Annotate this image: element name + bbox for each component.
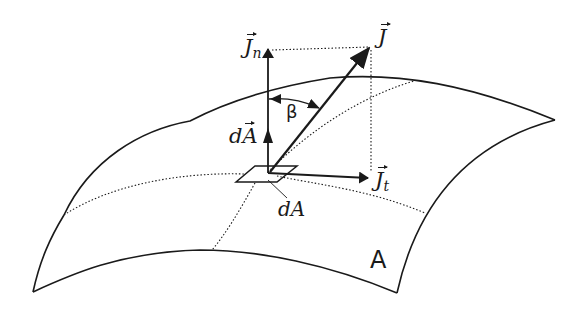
label-J-main: J — [378, 27, 386, 48]
label-dA-vector-d: d — [229, 124, 242, 148]
label-Jn-sub: n — [252, 45, 261, 61]
diagram-graphics — [0, 0, 587, 309]
label-dA: dA — [278, 199, 305, 219]
label-Jt-sub: t — [383, 178, 389, 194]
current-density-arrow — [270, 48, 369, 172]
label-dA-vector: dA — [229, 126, 258, 147]
label-beta: β — [286, 103, 298, 121]
beta-arc-start-arrowhead — [270, 94, 281, 104]
label-Jt: Jt — [375, 170, 389, 191]
label-dA-vector-A: A — [242, 126, 257, 147]
label-surface-A: A — [370, 248, 386, 272]
label-J: J — [378, 27, 386, 48]
dA-leader-line — [268, 180, 287, 198]
label-Jn: Jn — [244, 37, 261, 58]
dA-vector-arrowhead — [263, 128, 273, 143]
flux-surface-diagram: Jn J Jt dA β dA A — [0, 0, 587, 309]
